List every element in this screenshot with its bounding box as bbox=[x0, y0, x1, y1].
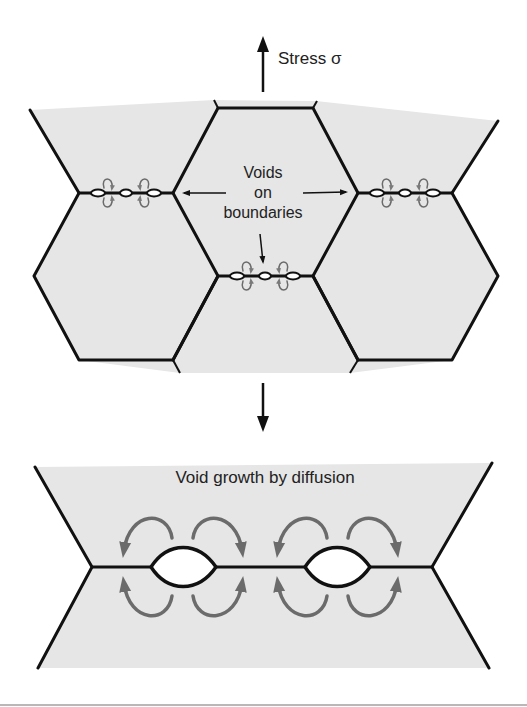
void-growth-diagram: Stress σ bbox=[0, 0, 527, 707]
stress-label: Stress σ bbox=[278, 49, 342, 68]
grain-field-top bbox=[30, 100, 498, 373]
callout-line-on: on bbox=[254, 184, 272, 201]
top-panel: Stress σ bbox=[30, 36, 498, 432]
arrow-up-icon bbox=[257, 36, 269, 92]
bottom-panel-title: Void growth by diffusion bbox=[175, 468, 354, 487]
pointer-right bbox=[303, 192, 346, 193]
bottom-panel: Void growth by diffusion bbox=[35, 463, 492, 668]
page-bottom-rule bbox=[0, 704, 527, 706]
arrow-down-icon bbox=[257, 383, 269, 432]
callout-line-boundaries: boundaries bbox=[223, 204, 302, 221]
callout-line-voids: Voids bbox=[243, 164, 282, 181]
